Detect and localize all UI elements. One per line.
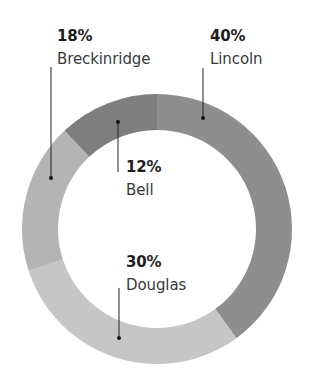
label-breckinridge-percent: 18% [57,29,150,44]
leader-dot-bell [116,120,120,124]
leader-dot-breckinridge [49,176,53,180]
leader-dot-lincoln [201,116,205,120]
slice-lincoln [157,94,292,338]
label-lincoln: 40% Lincoln [210,29,262,67]
donut-slices [22,94,292,364]
label-bell-percent: 12% [126,160,161,175]
label-douglas: 30% Douglas [126,255,186,293]
leader-dot-douglas [117,336,121,340]
label-douglas-percent: 30% [126,255,186,270]
label-breckinridge: 18% Breckinridge [57,29,150,67]
slice-breckinridge [22,131,89,271]
label-bell: 12% Bell [126,160,161,198]
label-bell-name: Bell [126,183,161,198]
label-lincoln-percent: 40% [210,29,262,44]
label-lincoln-name: Lincoln [210,52,262,67]
label-breckinridge-name: Breckinridge [57,52,150,67]
label-douglas-name: Douglas [126,278,186,293]
